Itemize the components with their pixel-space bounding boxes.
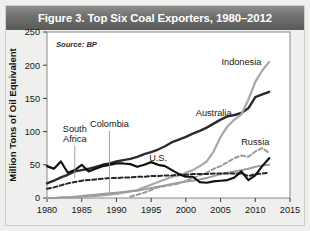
y-tick-label: 100 xyxy=(25,127,40,137)
x-tick-label: 2005 xyxy=(210,205,230,215)
series-label-colombia: Colombia xyxy=(90,119,130,129)
y-axis-title: Million Tons of Oil Equivalent xyxy=(7,47,18,181)
y-tick-label: 200 xyxy=(25,61,40,71)
x-tick-label: 2000 xyxy=(176,205,196,215)
y-tick-label: 0 xyxy=(35,193,40,203)
series-label-south-africa-line2: Africa xyxy=(63,134,87,144)
x-tick-label: 2015 xyxy=(280,205,300,215)
x-tick-label: 2010 xyxy=(245,205,265,215)
series-label-russia: Russia xyxy=(241,137,270,147)
y-tick-label: 50 xyxy=(30,160,40,170)
figure-card: Figure 3. Top Six Coal Exporters, 1980–2… xyxy=(0,0,310,231)
x-axis-ticks: 19801985199019952000200520102015 xyxy=(37,198,300,215)
series-label-u-s: U.S. xyxy=(149,153,167,163)
line-chart-svg: Million Tons of Oil Equivalent 050100150… xyxy=(0,0,310,231)
series-label-indonesia: Indonesia xyxy=(221,57,262,67)
x-tick-label: 1995 xyxy=(141,205,161,215)
x-tick-label: 1980 xyxy=(37,205,57,215)
y-axis-ticks: 050100150200250 xyxy=(25,27,47,203)
y-tick-label: 250 xyxy=(25,27,40,37)
x-tick-label: 1990 xyxy=(106,205,126,215)
chart-area: Million Tons of Oil Equivalent 050100150… xyxy=(0,0,310,231)
source-note: Source: BP xyxy=(56,40,98,49)
series-label-australia: Australia xyxy=(196,108,233,118)
x-tick-label: 1985 xyxy=(71,205,91,215)
y-tick-label: 150 xyxy=(25,94,40,104)
series-label-south-africa-line1: South xyxy=(63,124,87,134)
